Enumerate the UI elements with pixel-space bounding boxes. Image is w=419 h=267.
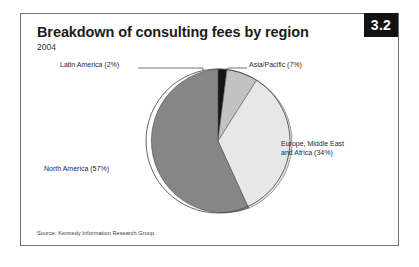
pie-label-europe-middle-east-africa: Europe, Middle East and Africa (34%) [281,140,373,158]
leader-line-latin-america [138,68,203,71]
pie-label-north-america: North America (57%) [44,165,109,174]
pie-slices [151,69,292,213]
figure-source-note: Source: Kennedy Information Research Gro… [37,230,154,236]
figure-frame: 3.2 Breakdown of consulting fees by regi… [20,13,399,246]
figure-container: 3.2 Breakdown of consulting fees by regi… [0,0,419,267]
pie-label-europe-line1: Europe, Middle East [281,140,344,147]
pie-label-asia-pacific: Asia/Pacific (7%) [249,61,302,70]
pie-chart-svg [21,14,400,247]
pie-label-latin-america: Latin America (2%) [60,61,119,70]
pie-chart: Latin America (2%) Asia/Pacific (7%) Eur… [21,14,400,247]
pie-label-europe-line2: and Africa (34%) [281,149,333,156]
